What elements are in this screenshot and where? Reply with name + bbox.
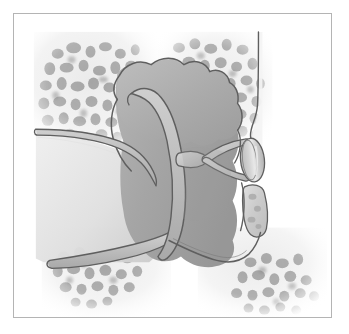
cavity-shadow-wash <box>181 147 231 220</box>
figure-page: Grayscale anatomical line drawing showin… <box>0 0 349 334</box>
figure-frame <box>13 13 332 318</box>
middle-ear-illustration <box>14 14 331 317</box>
